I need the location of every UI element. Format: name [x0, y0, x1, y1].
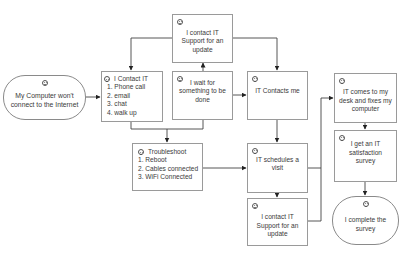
contact-support-top-text: I contact IT Support for an update: [173, 23, 232, 54]
neutral-face-icon: [138, 149, 144, 155]
contact-support-top-node: I contact IT Support for an update: [172, 14, 233, 63]
contact-methods-list: 1. Phone call 2. email 3. chat 4. walk u…: [104, 83, 160, 117]
list-item: 4. walk up: [107, 109, 160, 117]
list-item: 3. WiFi Connected: [138, 173, 200, 181]
schedules-visit-node: IT schedules a visit: [247, 143, 308, 193]
end-node-text: I complete the survey: [333, 208, 398, 233]
wait-text: I wait for something to be done: [173, 79, 232, 112]
contact-support-bottom-node: I contact IT Support for an update: [247, 198, 308, 246]
sad-face-icon: [42, 80, 48, 86]
start-node: My Computer won't connect to the Interne…: [3, 75, 86, 120]
it-comes-text: IT comes to my desk and fixes my compute…: [335, 82, 396, 113]
sad-face-icon: [177, 19, 183, 25]
happy-face-icon: [252, 148, 258, 154]
happy-face-icon: [339, 135, 345, 141]
list-item: 1. Phone call: [107, 83, 160, 91]
happy-face-icon: [363, 201, 369, 207]
contact-support-bottom-text: I contact IT Support for an update: [248, 205, 307, 238]
list-item: 3. chat: [107, 100, 160, 108]
happy-face-icon: [252, 76, 258, 82]
list-item: 2. email: [107, 92, 160, 100]
survey-text: I get an IT satisfaction survey: [335, 138, 396, 173]
sad-face-icon: [177, 76, 183, 82]
troubleshoot-steps-list: 1. Reboot 2. Cables connected 3. WiFi Co…: [135, 156, 200, 181]
contact-it-node: I Contact IT 1. Phone call 2. email 3. c…: [101, 71, 163, 122]
troubleshoot-node: Troubleshoot 1. Reboot 2. Cables connect…: [132, 143, 203, 191]
it-contacts-text: IT Contacts me: [252, 87, 303, 103]
end-node: I complete the survey: [332, 196, 399, 245]
troubleshoot-title: Troubleshoot: [148, 148, 186, 156]
schedules-visit-text: IT schedules a visit: [248, 156, 307, 181]
survey-node: I get an IT satisfaction survey: [334, 130, 397, 182]
sad-face-icon: [252, 203, 258, 209]
wait-node: I wait for something to be done: [172, 71, 233, 120]
it-comes-node: IT comes to my desk and fixes my compute…: [334, 73, 397, 123]
happy-face-icon: [339, 78, 345, 84]
list-item: 1. Reboot: [138, 156, 200, 164]
list-item: 2. Cables connected: [138, 165, 200, 173]
neutral-face-icon: [104, 76, 110, 82]
contact-it-title: I Contact IT: [114, 75, 148, 83]
it-contacts-node: IT Contacts me: [247, 71, 308, 120]
start-node-text: My Computer won't connect to the Interne…: [4, 86, 85, 109]
